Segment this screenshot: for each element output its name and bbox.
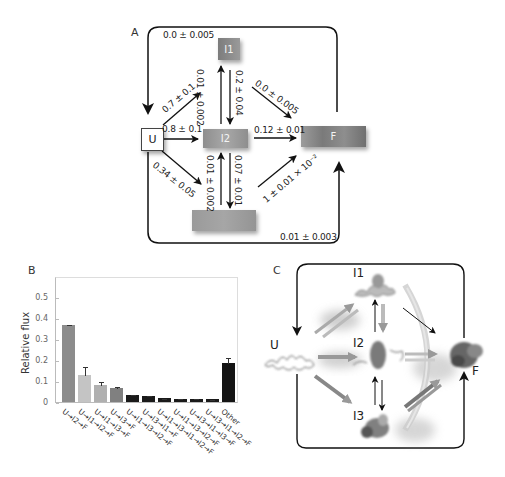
c-state-i2-label: I2: [353, 336, 364, 350]
y-tick-mark: [56, 340, 59, 341]
y-tick-label: 0.5: [30, 293, 48, 302]
y-tick-label: 0.2: [30, 356, 48, 365]
rate-i2-to-f: 0.12 ± 0.01: [254, 125, 305, 135]
state-i2-box: I2: [203, 129, 248, 148]
error-bar-cap: [115, 387, 120, 388]
y-tick-mark: [56, 319, 59, 320]
y-tick-labels: 00.10.20.30.40.5: [30, 277, 52, 403]
rate-i2-to-i3: 0.07 ± 0.01: [233, 155, 243, 206]
panel-a: A U: [0, 0, 505, 250]
panel-b-label: B: [28, 264, 36, 277]
error-bar-cap: [147, 396, 152, 397]
rate-i1-to-i2: 0.2 ± 0.04: [234, 70, 244, 116]
rate-bottom-loop: 0.01 ± 0.003: [280, 232, 337, 242]
state-i1-box: I1: [218, 38, 240, 60]
panel-b: B Relative flux 00.10.20.30.40.5 U→I2→FU…: [0, 250, 260, 477]
c-state-i3-label: I3: [353, 409, 364, 423]
bar-10: [222, 363, 235, 402]
structure-u: [265, 356, 314, 370]
error-bar-cap: [178, 399, 183, 400]
y-tick-mark: [56, 382, 59, 383]
state-i3-box: [192, 210, 256, 231]
error-bar-cap: [162, 399, 167, 400]
rate-i2-to-i1: 0.01 ± 0.002: [195, 69, 205, 126]
error-bar-cap: [83, 367, 88, 368]
bar-plot-area: [55, 277, 238, 403]
error-bar: [85, 367, 86, 375]
y-tick-label: 0.1: [30, 377, 48, 386]
bar-3: [110, 388, 123, 402]
bar-4: [126, 395, 139, 402]
rate-u-to-i2: 0.8 ± 0.1: [162, 124, 202, 134]
y-tick-label: 0.3: [30, 335, 48, 344]
bar-1: [78, 375, 91, 402]
error-bar-cap: [67, 325, 72, 326]
error-bar-cap: [131, 395, 136, 396]
state-f-label: F: [331, 131, 337, 142]
y-tick-mark: [56, 361, 59, 362]
error-bar-cap: [194, 399, 199, 400]
error-bar-cap: [99, 382, 104, 383]
error-bar-cap: [226, 358, 231, 359]
y-tick-mark: [56, 298, 59, 299]
rate-top-loop: 0.0 ± 0.005: [163, 30, 214, 40]
structure-i3: [361, 414, 389, 438]
state-u-box: U: [141, 128, 164, 151]
error-bar-cap: [210, 400, 215, 401]
y-tick-mark: [56, 403, 59, 404]
bar-0: [62, 325, 75, 402]
x-tick-labels: U→I2→FU→I1→I2→FU→I1→I3→FU→I3→FU→I1→I3→I2…: [55, 405, 238, 475]
c-state-i1-label: I1: [353, 266, 364, 280]
panel-c: C: [255, 250, 505, 477]
state-i2-label: I2: [221, 133, 230, 144]
bar-2: [94, 385, 107, 402]
y-tick-label: 0: [30, 398, 48, 407]
state-f-box: F: [301, 126, 366, 147]
state-u-label: U: [148, 133, 156, 146]
panel-c-diagram: [255, 250, 505, 477]
rate-i3-to-i2: 0.01 ± 0.002: [205, 155, 215, 212]
state-i1-label: I1: [224, 44, 233, 55]
c-state-u-label: U: [270, 338, 279, 352]
c-state-f-label: F: [472, 364, 479, 378]
y-tick-label: 0.4: [30, 314, 48, 323]
